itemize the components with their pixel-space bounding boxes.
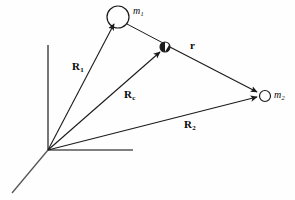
vector-label-R1: R1 bbox=[72, 61, 83, 72]
vector-R1 bbox=[48, 24, 114, 150]
vector-R2 bbox=[48, 97, 257, 150]
diagram-canvas bbox=[0, 0, 295, 200]
physics-vector-diagram: R1 Rc R2 r m1 m2 bbox=[0, 0, 295, 200]
vector-r bbox=[168, 46, 257, 92]
mass-label-m1: m1 bbox=[133, 6, 143, 16]
body-m1-circle bbox=[107, 6, 129, 28]
z-axis bbox=[12, 150, 48, 193]
body-m2-circle bbox=[260, 91, 271, 102]
vector-label-r: r bbox=[190, 40, 195, 51]
vector-label-Rc: Rc bbox=[124, 89, 135, 100]
mass-label-m2: m2 bbox=[274, 90, 284, 100]
m1-to-center-of-mass-connector bbox=[127, 24, 163, 43]
vector-label-R2: R2 bbox=[184, 119, 195, 130]
center-of-mass-marker bbox=[160, 42, 170, 52]
